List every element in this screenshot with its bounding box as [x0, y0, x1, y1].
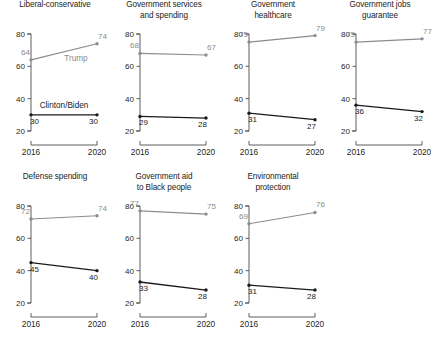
data-value-label: 28 — [198, 120, 207, 129]
data-point — [95, 42, 98, 45]
x-tick-label: 2016 — [131, 319, 150, 329]
data-value-label: 40 — [89, 273, 98, 282]
y-tick-label: 40 — [341, 95, 350, 104]
y-tick-label: 80 — [234, 202, 243, 211]
chart-panel: Government jobs guarantee204060802016202… — [325, 0, 435, 170]
y-tick-label: 80 — [125, 30, 134, 39]
data-value-label: 31 — [248, 287, 257, 296]
data-value-label: 68 — [130, 41, 139, 50]
y-tick-label: 20 — [341, 127, 350, 136]
x-axis — [140, 141, 206, 145]
plot-area: 204060802016202077753328 — [109, 172, 219, 342]
small-multiples-chart: Liberal-conservative20406080201620206474… — [0, 0, 435, 343]
x-tick-label: 2016 — [22, 147, 41, 157]
y-tick-label: 60 — [16, 62, 25, 71]
x-axis — [31, 313, 97, 317]
y-tick-label: 60 — [125, 62, 134, 71]
data-value-label: 31 — [248, 115, 257, 124]
series-line — [249, 113, 315, 119]
series-line — [140, 282, 206, 290]
data-value-label: 29 — [139, 118, 148, 127]
y-tick-label: 60 — [234, 234, 243, 243]
series-line — [249, 36, 315, 42]
data-value-label: 28 — [198, 292, 207, 301]
series-line — [356, 39, 422, 42]
x-tick-label: 2016 — [240, 147, 259, 157]
chart-panel: Government aid to Black people2040608020… — [109, 172, 219, 342]
y-tick-label: 40 — [125, 267, 134, 276]
y-tick-label: 20 — [234, 127, 243, 136]
x-tick-label: 2016 — [22, 319, 41, 329]
x-tick-label: 2020 — [197, 147, 216, 157]
data-point — [138, 52, 141, 55]
y-tick-label: 40 — [16, 95, 25, 104]
y-tick-label: 40 — [234, 95, 243, 104]
data-point — [138, 209, 141, 212]
data-value-label: 77 — [130, 199, 139, 208]
x-tick-label: 2020 — [88, 319, 107, 329]
y-tick-label: 60 — [16, 234, 25, 243]
plot-area: 204060802016202068672928 — [109, 0, 219, 170]
data-value-label: 75 — [239, 30, 248, 39]
y-tick-label: 40 — [234, 267, 243, 276]
chart-panel: Liberal-conservative20406080201620206474… — [0, 0, 110, 170]
data-value-label: 72 — [21, 207, 30, 216]
x-tick-label: 2016 — [240, 319, 259, 329]
data-value-label: 67 — [207, 43, 216, 52]
y-axis — [27, 206, 31, 303]
series-line — [140, 53, 206, 55]
data-value-label: 36 — [355, 107, 364, 116]
data-point — [420, 37, 423, 40]
series-line — [356, 105, 422, 111]
data-point — [354, 40, 357, 43]
data-value-label: 27 — [307, 122, 316, 131]
x-tick-label: 2020 — [88, 147, 107, 157]
x-tick-label: 2016 — [131, 147, 150, 157]
data-value-label: 30 — [30, 117, 39, 126]
data-point — [29, 58, 32, 61]
x-tick-label: 2020 — [306, 319, 325, 329]
x-tick-label: 2020 — [413, 147, 432, 157]
y-tick-label: 60 — [341, 62, 350, 71]
chart-panel: Government healthcare2040608020162020757… — [218, 0, 328, 170]
data-value-label: 74 — [98, 204, 107, 213]
y-tick-label: 40 — [16, 267, 25, 276]
chart-panel: Defense spending204060802016202072744540 — [0, 172, 110, 342]
data-point — [247, 40, 250, 43]
data-value-label: 30 — [89, 117, 98, 126]
data-point — [247, 222, 250, 225]
x-axis — [31, 141, 97, 145]
x-axis — [356, 141, 422, 145]
chart-panel: Environmental protection2040608020162020… — [218, 172, 328, 342]
series-line — [140, 211, 206, 214]
y-tick-label: 20 — [16, 299, 25, 308]
data-point — [313, 34, 316, 37]
series-line — [31, 263, 97, 271]
x-tick-label: 2020 — [197, 319, 216, 329]
plot-area: 204060802016202069763128 — [218, 172, 328, 342]
y-tick-label: 40 — [125, 95, 134, 104]
y-tick-label: 60 — [234, 62, 243, 71]
data-value-label: 28 — [307, 292, 316, 301]
chart-panel: Government services and spending20406080… — [109, 0, 219, 170]
data-point — [29, 217, 32, 220]
data-value-label: 76 — [316, 200, 325, 209]
data-value-label: 64 — [21, 48, 30, 57]
plot-area: 204060802016202075793127 — [218, 0, 328, 170]
data-value-label: 33 — [139, 284, 148, 293]
data-value-label: 45 — [30, 265, 39, 274]
x-axis — [140, 313, 206, 317]
x-axis — [249, 313, 315, 317]
plot-area: 204060802016202072744540 — [0, 172, 110, 342]
data-value-label: 75 — [346, 30, 355, 39]
series-annotation: Clinton/Biden — [40, 101, 89, 110]
y-tick-label: 20 — [125, 299, 134, 308]
series-line — [140, 116, 206, 118]
data-value-label: 32 — [414, 114, 423, 123]
data-value-label: 77 — [423, 27, 432, 36]
plot-area: 204060802016202075773632 — [325, 0, 435, 170]
series-line — [31, 216, 97, 219]
x-tick-label: 2020 — [306, 147, 325, 157]
data-value-label: 75 — [207, 202, 216, 211]
y-tick-label: 20 — [234, 299, 243, 308]
